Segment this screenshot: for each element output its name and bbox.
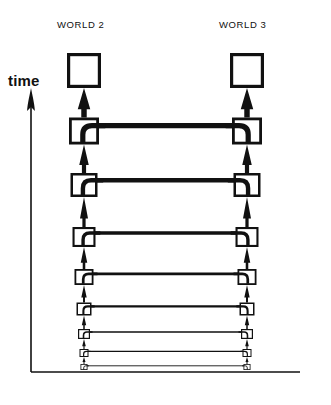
time-arrow-right-4	[244, 247, 251, 269]
time-arrow-left-7	[82, 339, 86, 349]
time-arrow-right-5	[244, 285, 249, 303]
world-connector-7	[84, 351, 248, 356]
world-connector-8	[84, 366, 248, 370]
time-arrow-left-terminal	[78, 88, 91, 118]
time-arrow-left-8	[83, 357, 86, 364]
time-arrow-right-2	[242, 145, 252, 174]
time-arrow-right-7	[245, 339, 249, 349]
ladder-diagram-graphic	[0, 0, 331, 405]
world-connector-6	[84, 332, 248, 338]
time-arrow-right-6	[245, 316, 249, 330]
time-arrow-left-3	[80, 197, 88, 227]
world-connector-4	[83, 274, 248, 284]
diagram-canvas: WORLD 2 WORLD 3 time	[0, 0, 331, 405]
time-arrow-right-3	[243, 197, 251, 227]
time-arrow-left-6	[82, 316, 86, 330]
world-connector-5	[83, 306, 247, 314]
time-arrow-right-8	[246, 357, 249, 364]
time-arrow-left-4	[81, 247, 88, 269]
time-arrow-left-2	[79, 145, 89, 174]
world-connector-3	[83, 233, 248, 245]
terminal-box-world-2	[69, 55, 100, 87]
time-arrow-right-terminal	[241, 88, 254, 118]
world-connector-1	[83, 126, 248, 143]
world-connector-2	[83, 180, 248, 195]
terminal-box-world-3	[232, 55, 263, 87]
time-arrow-left-5	[81, 285, 86, 303]
